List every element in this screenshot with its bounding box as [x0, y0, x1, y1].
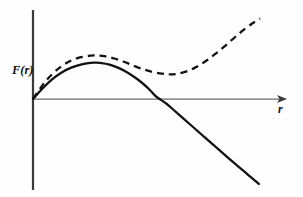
- force-vs-radius-plot: F(r) r: [0, 0, 303, 197]
- figure-canvas: F(r) r: [0, 0, 303, 197]
- solid-force-curve: [33, 63, 259, 184]
- y-axis-label: F(r): [11, 63, 34, 77]
- x-axis-label: r: [278, 102, 283, 116]
